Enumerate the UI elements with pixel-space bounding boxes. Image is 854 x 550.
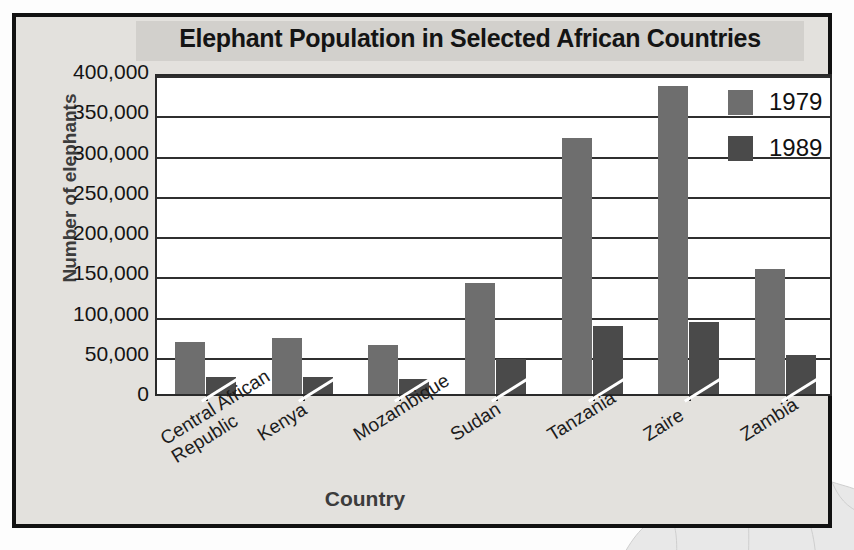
bar-1979-mozambique[interactable] — [368, 345, 398, 394]
y-axis-tick-label: 50,000 — [19, 342, 149, 366]
chart-title: Elephant Population in Selected African … — [136, 24, 804, 53]
legend-item-1989[interactable]: 1989 — [728, 125, 854, 171]
y-axis-tick-label: 250,000 — [19, 181, 149, 205]
chart-frame: Elephant Population in Selected African … — [12, 13, 832, 528]
bar-group — [175, 76, 236, 394]
bar-group — [658, 76, 719, 394]
chart-page: Elephant Population in Selected African … — [0, 0, 854, 550]
y-axis-tick-label: 200,000 — [19, 221, 149, 245]
bar-1979-kenya[interactable] — [272, 338, 302, 394]
x-axis-label-sudan: Sudan — [447, 399, 504, 446]
bar-group — [272, 76, 333, 394]
legend-swatch-1989 — [728, 136, 753, 161]
y-axis-tick-label: 0 — [19, 382, 149, 406]
bar-1979-zambia[interactable] — [755, 269, 785, 394]
y-axis-tick-label: 300,000 — [19, 141, 149, 165]
bar-1979-zaire[interactable] — [658, 86, 688, 394]
bar-group — [368, 76, 429, 394]
x-axis-title: Country — [155, 487, 575, 511]
legend-label-1979: 1979 — [769, 88, 822, 116]
bar-1979-central-african-republic[interactable] — [175, 342, 205, 394]
legend-label-1989: 1989 — [769, 134, 822, 162]
y-axis-tick-labels: 050,000100,000150,000200,000250,000300,0… — [16, 74, 149, 396]
x-axis-label-zambia: Zambia — [737, 394, 802, 445]
legend-item-1979[interactable]: 1979 — [728, 79, 854, 125]
chart-legend: 19791989 — [728, 79, 854, 171]
bar-group — [562, 76, 623, 394]
legend-swatch-1979 — [728, 90, 753, 115]
y-axis-tick-label: 400,000 — [19, 60, 149, 84]
y-axis-tick-label: 150,000 — [19, 261, 149, 285]
x-axis-label-zaire: Zaire — [640, 405, 688, 445]
bar-group — [465, 76, 526, 394]
bar-1979-sudan[interactable] — [465, 283, 495, 394]
y-axis-tick-label: 100,000 — [19, 302, 149, 326]
y-axis-tick-label: 350,000 — [19, 100, 149, 124]
x-axis-label-tanzania: Tanzania — [544, 388, 619, 446]
bar-1979-tanzania[interactable] — [562, 138, 592, 394]
